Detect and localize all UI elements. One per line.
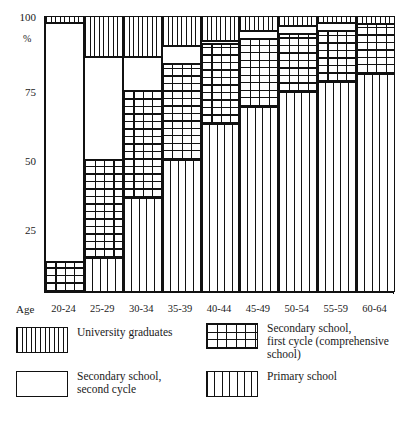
x-axis-label-50-54: 50-54 — [277, 303, 316, 314]
bar-segment-45-49-secondary-school[interactable] — [239, 39, 278, 107]
bar-35-39[interactable] — [162, 16, 201, 292]
bar-segment-40-44-primary-school[interactable] — [201, 124, 240, 292]
bar-segment-20-24-secondary-school[interactable] — [45, 23, 84, 262]
x-axis-label-60-64: 60-64 — [355, 303, 394, 314]
bar-segment-50-54-primary-school[interactable] — [278, 92, 317, 292]
bar-segment-35-39-secondary-school[interactable] — [162, 64, 201, 159]
bar-segment-50-54-secondary-school[interactable] — [278, 26, 317, 34]
x-axis-label-45-49: 45-49 — [238, 303, 277, 314]
bar-segment-45-49-university-graduates[interactable] — [239, 16, 278, 31]
legend-sec1-line1: Secondary school, — [267, 322, 389, 335]
x-axis-label-35-39: 35-39 — [161, 303, 200, 314]
legend-swatch-secondary-second-cycle-icon — [16, 371, 68, 397]
bar-segment-60-64-secondary-school[interactable] — [356, 24, 395, 74]
bar-50-54[interactable] — [278, 16, 317, 292]
bar-45-49[interactable] — [239, 16, 278, 292]
legend-item-university: University graduates — [16, 326, 173, 353]
legend-item-secondary-second-cycle: Secondary school, second cycle — [16, 370, 161, 397]
legend-swatch-secondary-first-cycle-icon — [206, 323, 258, 349]
legend-label-primary-school: Primary school — [267, 370, 337, 383]
bar-segment-25-29-secondary-school[interactable] — [84, 57, 123, 159]
bar-segment-55-59-university-graduates[interactable] — [317, 16, 356, 23]
bar-segment-30-34-secondary-school[interactable] — [123, 57, 162, 90]
legend-swatch-primary-school-icon — [206, 371, 258, 397]
bar-segment-55-59-secondary-school[interactable] — [317, 23, 356, 31]
bar-segment-20-24-secondary-school[interactable] — [45, 262, 84, 292]
legend-sec1-line2: first cycle (comprehensive — [267, 335, 389, 348]
bar-40-44[interactable] — [201, 16, 240, 292]
bar-segment-35-39-secondary-school[interactable] — [162, 46, 201, 64]
bar-segment-25-29-university-graduates[interactable] — [84, 16, 123, 57]
bar-60-64[interactable] — [356, 16, 395, 292]
bar-segment-45-49-primary-school[interactable] — [239, 107, 278, 292]
bar-segment-50-54-university-graduates[interactable] — [278, 16, 317, 26]
education-level-by-age-chart: 100 75 50 25 % Age 20-2425-2930-3435-394… — [0, 0, 405, 421]
bar-25-29[interactable] — [84, 16, 123, 292]
x-axis-label-40-44: 40-44 — [200, 303, 239, 314]
bar-segment-30-34-primary-school[interactable] — [123, 198, 162, 292]
bar-segment-30-34-secondary-school[interactable] — [123, 91, 162, 199]
bar-55-59[interactable] — [317, 16, 356, 292]
legend-sec2-line2: second cycle — [77, 383, 161, 396]
x-axis-label-25-29: 25-29 — [83, 303, 122, 314]
y-tick-label-75: 75 — [6, 87, 36, 98]
bar-segment-30-34-university-graduates[interactable] — [123, 16, 162, 57]
y-axis-unit-label: % — [23, 33, 31, 44]
y-tick-label-25: 25 — [6, 225, 36, 236]
bar-segment-50-54-secondary-school[interactable] — [278, 34, 317, 92]
bar-segment-35-39-primary-school[interactable] — [162, 160, 201, 292]
bar-segment-20-24-university-graduates[interactable] — [45, 16, 84, 23]
bar-20-24[interactable] — [45, 16, 84, 292]
bar-segment-55-59-secondary-school[interactable] — [317, 31, 356, 82]
chart-legend: University graduates Secondary school, s… — [16, 326, 394, 406]
legend-swatch-university-icon — [16, 327, 68, 353]
legend-label-secondary-second-cycle: Secondary school, second cycle — [77, 370, 161, 396]
legend-sec2-line1: Secondary school, — [77, 370, 161, 383]
plot-area — [44, 17, 394, 293]
bar-segment-45-49-secondary-school[interactable] — [239, 31, 278, 39]
bar-segment-35-39-university-graduates[interactable] — [162, 16, 201, 46]
bar-segment-60-64-primary-school[interactable] — [356, 74, 395, 292]
legend-label-secondary-first-cycle: Secondary school, first cycle (comprehen… — [267, 322, 389, 361]
legend-university-line1: University graduates — [77, 326, 173, 339]
y-tick-label-50: 50 — [6, 156, 36, 167]
bar-segment-40-44-university-graduates[interactable] — [201, 16, 240, 41]
legend-primary-line1: Primary school — [267, 370, 337, 383]
bar-30-34[interactable] — [123, 16, 162, 292]
legend-label-university: University graduates — [77, 326, 173, 339]
bar-segment-40-44-secondary-school[interactable] — [201, 44, 240, 124]
bar-segment-55-59-primary-school[interactable] — [317, 82, 356, 292]
legend-item-primary-school: Primary school — [206, 370, 337, 397]
x-axis-label-55-59: 55-59 — [316, 303, 355, 314]
bar-segment-40-44-secondary-school[interactable] — [201, 41, 240, 44]
legend-sec1-line3: school) — [267, 348, 389, 361]
x-axis-label-20-24: 20-24 — [44, 303, 83, 314]
bar-segment-60-64-university-graduates[interactable] — [356, 16, 395, 24]
x-axis-caption: Age — [16, 303, 34, 315]
bar-segment-25-29-secondary-school[interactable] — [84, 160, 123, 258]
bar-segment-25-29-primary-school[interactable] — [84, 258, 123, 293]
x-axis-label-30-34: 30-34 — [122, 303, 161, 314]
y-tick-label-100: 100 — [6, 12, 36, 23]
legend-item-secondary-first-cycle: Secondary school, first cycle (comprehen… — [206, 322, 389, 361]
